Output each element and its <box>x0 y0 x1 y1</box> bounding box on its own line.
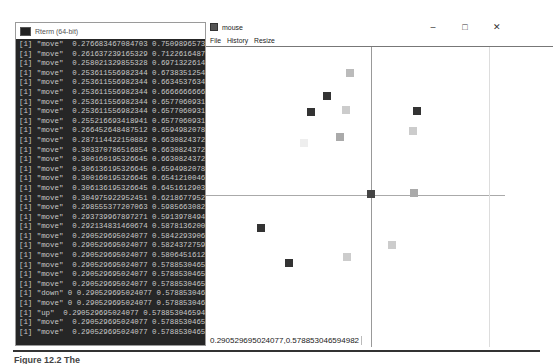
menu-file[interactable]: File <box>210 37 221 44</box>
caption-rule <box>13 350 540 352</box>
console-line: [1] "move" 0.298555377207063 0.598566308… <box>16 203 205 213</box>
menu-resize[interactable]: Resize <box>254 37 275 44</box>
app-icon <box>210 23 218 31</box>
rterm-window[interactable]: Rterm (64-bit) [1] "move" 0.276683467084… <box>15 22 206 346</box>
console-line: [1] "move" 0.292134831460674 0.587813620… <box>16 222 205 232</box>
console-line: [1] "move" 0.304975922952451 0.621867795… <box>16 194 205 204</box>
horizontal-axis-line <box>206 195 505 196</box>
click-marker <box>257 224 265 232</box>
console-line: [1] "move" 0.300160195326645 0.654121004… <box>16 174 205 184</box>
console-output[interactable]: [1] "move" 0.276683467084703 0.750989657… <box>16 39 205 345</box>
click-marker <box>409 127 417 135</box>
click-marker <box>307 108 315 116</box>
mouse-title-bar[interactable]: mouse – □ ✕ <box>206 19 553 35</box>
click-marker <box>413 107 421 115</box>
console-line: [1] "move" 0.287114422150882 0.663082437… <box>16 136 205 146</box>
console-line: [1] "move" 0.306136195326645 0.659498207… <box>16 165 205 175</box>
console-line: [1] "move" 0.290529695024077 0.580645161… <box>16 251 205 261</box>
console-line: [1] "move" 0.276683467084703 0.750989657… <box>16 40 205 50</box>
mouse-title: mouse <box>222 24 243 31</box>
console-line: [1] "up" 0.290529695024077 0.57885304659… <box>16 309 205 319</box>
minimize-button[interactable]: – <box>417 20 449 34</box>
close-button[interactable]: ✕ <box>481 20 513 34</box>
console-line: [1] "move" 0.303370786516854 0.663082437… <box>16 146 205 156</box>
console-line: [1] "move" 0.253611556982344 0.657706093… <box>16 98 205 108</box>
console-line: [1] "move" 0.266452648487512 0.659498207… <box>16 126 205 136</box>
console-line: [1] "move" 0.290529695024077 0.582437275… <box>16 241 205 251</box>
console-line: [1] "move" 0.290529695024077 0.578853046… <box>16 261 205 271</box>
click-marker <box>410 189 418 197</box>
console-line: [1] "move" 0.290529695024077 0.578853046… <box>16 318 205 328</box>
console-line: [1] "move" 0.253611556982344 0.663453763… <box>16 78 205 88</box>
plot-canvas[interactable]: 0.290529695024077,0.578853046594982 <box>206 47 505 347</box>
console-line: [1] "move" 0.255216693418941 0.657706093… <box>16 117 205 127</box>
console-line: [1] "move" 0.290529695024077 0.578853046… <box>16 280 205 290</box>
console-line: [1] "move" 0.253611556982344 0.657706093… <box>16 107 205 117</box>
rterm-title: Rterm (64-bit) <box>35 28 78 35</box>
console-line: [1] "move" 0.300160195326645 0.663082437… <box>16 155 205 165</box>
window-controls: – □ ✕ <box>417 20 513 34</box>
click-marker <box>336 133 344 141</box>
figure-caption: Figure 12.2 The <box>14 355 80 364</box>
rterm-title-bar[interactable]: Rterm (64-bit) <box>16 23 205 40</box>
console-line: [1] "move" 0.253611556982344 0.673835125… <box>16 69 205 79</box>
console-line: [1] "move" 0 0.290529695024077 0.5788530… <box>16 299 205 309</box>
click-marker <box>343 253 351 261</box>
console-line: [1] "move" 0.290529695024077 0.578853046… <box>16 328 205 338</box>
click-marker <box>342 106 350 114</box>
console-line: [1] "down" 0 0.290529695024077 0.5788530… <box>16 289 205 299</box>
menu-bar: File History Resize <box>206 35 553 47</box>
maximize-button[interactable]: □ <box>449 20 481 34</box>
console-line: [1] "move" 0.258021329855328 0.697132261… <box>16 59 205 69</box>
console-line: [1] "move" 0.290529695024077 0.578853046… <box>16 270 205 280</box>
console-line: [1] "move" 0.253611556982344 0.666666666… <box>16 88 205 98</box>
console-line: [1] "move" 0.306136195326645 0.645161290… <box>16 184 205 194</box>
click-marker <box>346 69 354 77</box>
click-marker <box>388 241 396 249</box>
click-marker <box>300 139 308 147</box>
plot-right-border <box>489 47 490 347</box>
coordinate-readout: 0.290529695024077,0.578853046594982 <box>210 336 362 345</box>
console-line: [1] "move" 0.293739967897271 0.591397849… <box>16 213 205 223</box>
console-line: [1] "move" 0.290529695024077 0.584229390… <box>16 232 205 242</box>
mouse-window[interactable]: mouse – □ ✕ File History Resize 0.290529… <box>206 19 553 347</box>
menu-history[interactable]: History <box>227 37 248 44</box>
terminal-icon <box>20 27 31 36</box>
click-marker <box>285 259 293 267</box>
click-marker <box>367 190 375 198</box>
click-marker <box>323 92 331 100</box>
console-line: [1] "move" 0.261637239165329 0.712261648… <box>16 50 205 60</box>
